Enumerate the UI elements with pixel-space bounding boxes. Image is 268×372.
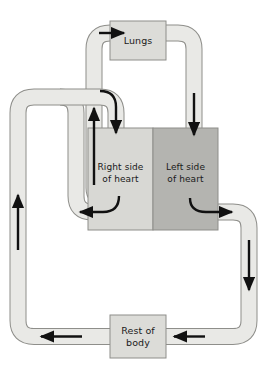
vessel-left-heart-to-body [166,212,249,337]
circulatory-system-diagram: Right side of heart Left side of heart L… [0,0,268,372]
lungs-group: Lungs [110,21,166,60]
diagram-canvas: Right side of heart Left side of heart L… [0,0,268,372]
left-side-of-heart-label-line2: of heart [167,174,204,184]
left-side-of-heart-label-line1: Left side [166,162,205,172]
rest-of-body-label-line1: Rest of [121,325,155,336]
lungs-label: Lungs [124,35,153,46]
rest-of-body-label-line2: body [126,337,150,348]
heart-group: Right side of heart Left side of heart [88,128,218,230]
right-side-of-heart-label-line2: of heart [102,174,139,184]
right-side-of-heart-label-line1: Right side [98,162,144,172]
rest-of-body-group: Rest of body [110,315,166,358]
